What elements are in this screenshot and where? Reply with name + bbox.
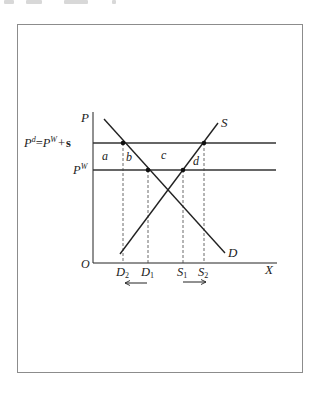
x-axis-label: X — [264, 262, 274, 277]
domestic-price-label: Pd=PW+s — [23, 135, 71, 150]
quantity-label-s1: S1 — [177, 265, 187, 280]
area-label-c: c — [161, 148, 167, 162]
area-label-d: d — [193, 154, 200, 168]
point-supply-pd — [202, 141, 207, 146]
quantity-label-s2: S2 — [198, 265, 208, 280]
area-label-b: b — [126, 150, 132, 164]
demand-curve-label: D — [227, 245, 238, 260]
point-demand-pw — [146, 168, 151, 173]
point-demand-pd — [121, 141, 126, 146]
origin-label: O — [81, 257, 90, 271]
y-axis-label: P — [80, 110, 89, 125]
demand-curve — [104, 119, 225, 253]
supply-curve-label: S — [221, 115, 228, 130]
world-price-label: PW — [72, 162, 89, 177]
quantity-label-d1: D1 — [140, 265, 154, 280]
point-supply-pw — [181, 168, 186, 173]
export-subsidy-diagram: P X O Pd=PW+s PW S D a b c d D2 D1 S1 S2 — [0, 0, 313, 399]
quantity-label-d2: D2 — [115, 265, 129, 280]
area-label-a: a — [102, 149, 108, 163]
